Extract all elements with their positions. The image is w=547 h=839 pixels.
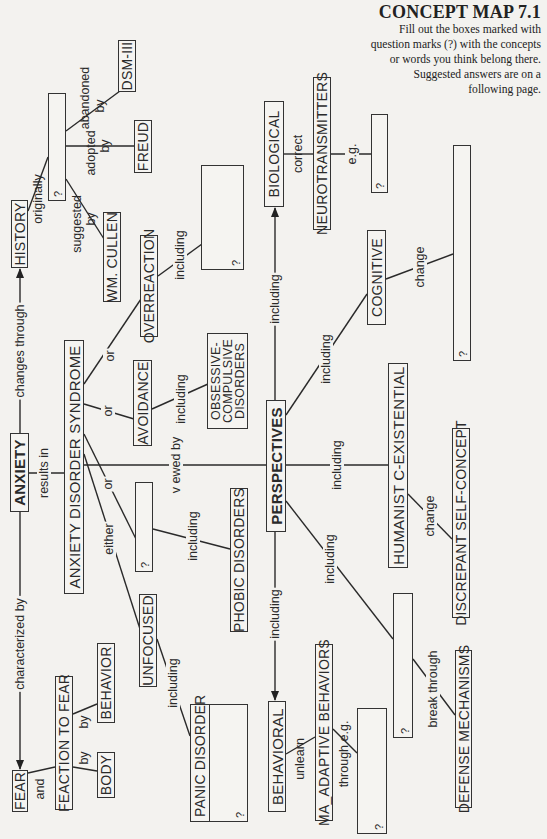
node-behavioral: BEHAVIORAL (268, 701, 286, 812)
node-reaction-to-fear: FEACTION TO FEAR (55, 676, 73, 810)
ocd-line: DISORDERS (234, 343, 246, 419)
question-mark: ? (374, 824, 386, 833)
link-label-either: either (102, 521, 116, 556)
link-label-or-blank: or (101, 476, 115, 491)
node-phobic-disorders: PHOBIC DISORDERS (230, 488, 248, 632)
link-label-including-unfocused: including (166, 656, 180, 709)
link-label-including-cognitive: including (319, 332, 333, 385)
question-mark: ? (375, 183, 387, 192)
ocd-line: OBSESSIVE- (210, 342, 222, 420)
link-label-or-avoidance: or (101, 403, 115, 418)
blank-box-overreaction-type[interactable]: ? (201, 165, 244, 270)
link-label-abandoned-by: by (93, 97, 107, 114)
blank-box-neurotransmitter-example[interactable]: ? (371, 114, 388, 193)
blank-box-panic-disorder[interactable]: ? (210, 705, 247, 821)
node-perspectives: PERSPECTIVES (266, 400, 286, 532)
question-mark: ? (231, 260, 243, 269)
link-label-change-cognitive: change (413, 244, 427, 289)
node-wm-cullen: WM. CULLEN (103, 212, 121, 302)
link-label-changes-through: changes through (13, 302, 27, 399)
node-biological: BIOLOGICAL (264, 101, 284, 207)
question-mark: ? (140, 562, 152, 571)
node-freud: FREUD (134, 120, 152, 173)
link-label-suggested: suggested (70, 193, 84, 255)
node-fear: FEAR (12, 770, 28, 812)
node-avoidance: AVOIDANCE (133, 360, 152, 446)
node-anxiety-disorder-syndrome: ANXIETY DISORDER SYNDROME (64, 340, 84, 594)
link-label-including-behavioral: including (268, 587, 282, 640)
link-label-including-psychodynamic: including (323, 532, 337, 585)
link-label-results-in: results in (37, 446, 51, 500)
node-unfocused: UNFOCUSED (139, 594, 157, 687)
link-label-break-through: break through (426, 648, 440, 729)
question-mark: ? (458, 351, 470, 360)
blank-box-behavioral-technique[interactable]: ? (357, 708, 387, 834)
node-neurotransmitters: NEUROTRANSMITTERS (313, 77, 331, 230)
link-label-including-phobic: including (186, 509, 200, 562)
link-label-viewed-by: v ewed by (169, 435, 183, 495)
node-history: HISTORY (11, 200, 28, 268)
link-label-through-eg: through e.g. (337, 719, 351, 790)
question-mark: ? (235, 812, 247, 821)
link-label-suggested-by: by (84, 210, 98, 227)
node-overreaction: OVERREACTION (140, 235, 158, 337)
link-label-including-overreaction: including (173, 228, 187, 281)
node-humanistic-existential: HUMANIST C-EXISTENTIAL (388, 363, 408, 568)
link-label-including-humanistic: including (330, 438, 344, 491)
link-label-adopted: adopted (84, 128, 98, 177)
link-label-characterized-by: characterized by (13, 596, 27, 692)
blank-box-cognitive-change[interactable]: ? (453, 145, 471, 361)
question-mark: ? (53, 191, 65, 200)
node-maladaptive-behaviors: MA_ADAPTIVE BEHAVIORS (315, 644, 333, 821)
node-anxiety: ANXIETY (10, 433, 29, 512)
blank-box-psychodynamic[interactable]: ? (393, 593, 413, 738)
link-label-unlearn: unlearn (293, 736, 307, 782)
node-behavior: BEHAVIOR (97, 643, 115, 723)
node-cognitive: COGNITIVE (367, 230, 386, 325)
node-defense-mechanisms: DEFENSE MECHANISMS (455, 650, 472, 808)
link-label-change-humanistic: change (423, 493, 437, 538)
ocd-line: COMPULSIVE (222, 339, 234, 423)
link-label-originally: originally (31, 172, 45, 225)
link-label-including-avoidance: including (174, 372, 188, 425)
link-label-and: and (33, 777, 47, 802)
node-panic-disorder: PANIC DISORDER ? (190, 704, 248, 822)
blank-box-or[interactable]: ? (135, 482, 153, 572)
link-label-by-behavior: by (77, 713, 91, 730)
blank-box-originally[interactable]: ? (48, 93, 66, 201)
node-body: BODY (97, 752, 115, 798)
node-obsessive-compulsive-disorders: OBSESSIVE- COMPULSIVE DISORDERS (207, 333, 248, 429)
concept-map: HISTORY ANXIETY FEAR FEACTION TO FEAR BE… (0, 0, 547, 839)
node-discrepant-self-concept: DISCREPANT SELF-CONCEPT (452, 428, 470, 618)
link-label-adopted-by: by (98, 137, 112, 154)
link-label-eg: e.g. (345, 142, 359, 167)
node-dsm-iii: DSM-III (118, 40, 136, 92)
question-mark: ? (400, 728, 412, 737)
panic-disorder-label: PANIC DISORDER (191, 705, 210, 821)
link-label-including-biological: including (268, 272, 282, 325)
link-label-or-overreaction: or (103, 348, 117, 363)
link-label-abandoned: abandoned (78, 65, 92, 132)
link-label-correct: correct (291, 133, 305, 175)
link-label-by-body: by (77, 749, 91, 766)
